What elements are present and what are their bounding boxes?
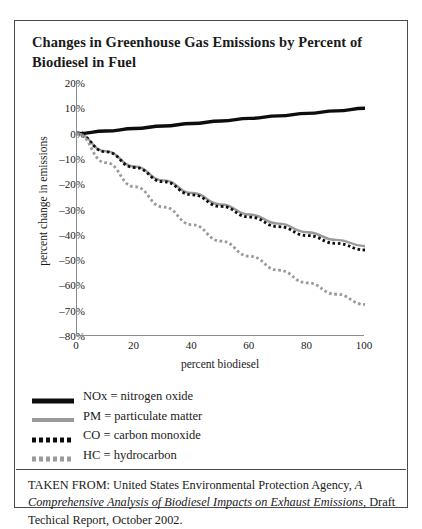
chart-curves <box>77 83 365 336</box>
series-line <box>77 134 365 247</box>
chart-title: Changes in Greenhouse Gas Emissions by P… <box>32 33 372 72</box>
legend-label: PM = particulate matter <box>83 409 202 424</box>
series-line <box>77 108 365 133</box>
legend-item: NOx = nitrogen oxide <box>32 387 362 407</box>
x-axis-label: percent biodiesel <box>76 358 364 370</box>
caption-prefix: TAKEN FROM: United States Environmental … <box>28 478 352 492</box>
legend-label: CO = carbon monoxide <box>83 428 201 443</box>
legend-item: HC = hydrocarbon <box>32 446 362 466</box>
legend-swatch <box>32 392 74 402</box>
plot-area <box>76 83 364 336</box>
legend-label: NOx = nitrogen oxide <box>83 389 193 404</box>
figure-frame: Changes in Greenhouse Gas Emissions by P… <box>14 20 408 508</box>
x-tick-label: 60 <box>243 339 254 351</box>
x-axis-ticks: 020406080100 <box>76 339 364 357</box>
legend-swatch <box>32 411 74 421</box>
legend-item: CO = carbon monoxide <box>32 426 362 446</box>
x-tick-label: 20 <box>128 339 139 351</box>
chart-legend: NOx = nitrogen oxidePM = particulate mat… <box>32 387 362 465</box>
legend-swatch <box>32 431 74 441</box>
legend-label: HC = hydrocarbon <box>83 448 177 463</box>
legend-item: PM = particulate matter <box>32 407 362 427</box>
series-line <box>77 134 365 250</box>
source-caption: TAKEN FROM: United States Environmental … <box>28 477 398 529</box>
plot-block: percent change in emissions 20%10%0%–10%… <box>15 83 409 373</box>
x-tick-label: 40 <box>186 339 197 351</box>
legend-swatch <box>32 450 74 460</box>
x-tick-label: 0 <box>73 339 79 351</box>
x-tick-label: 100 <box>356 339 373 351</box>
legend-caption-divider <box>16 469 406 470</box>
x-tick-label: 80 <box>301 339 312 351</box>
